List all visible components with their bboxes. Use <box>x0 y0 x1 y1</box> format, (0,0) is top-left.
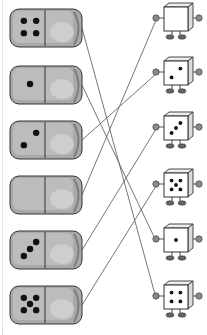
right-hand-icon <box>196 124 202 130</box>
right-hand-icon <box>196 236 202 242</box>
foot-icon <box>178 313 186 317</box>
matching-diagram <box>0 0 207 335</box>
right-hand-icon <box>196 69 202 75</box>
connection-line-6-to-4[interactable] <box>82 186 156 305</box>
pip-dot <box>21 142 27 148</box>
foot-icon <box>178 89 186 93</box>
pip-dot <box>33 130 39 136</box>
domino-column <box>10 9 82 324</box>
dice-character-5[interactable] <box>153 224 202 260</box>
pip-dot <box>21 307 27 313</box>
pip-dot <box>21 30 27 36</box>
foot-icon <box>166 35 174 39</box>
domino-1[interactable] <box>10 9 82 47</box>
foot-icon <box>166 256 174 260</box>
left-hand-icon <box>153 15 159 21</box>
foot-icon <box>178 201 186 205</box>
left-hand-icon <box>153 124 159 130</box>
pip-dot <box>174 126 178 130</box>
dice-character-3[interactable] <box>153 112 202 148</box>
domino-5[interactable] <box>10 231 82 269</box>
dice-character-2[interactable] <box>153 57 202 93</box>
dice-character-4[interactable] <box>153 169 202 205</box>
foot-icon <box>166 89 174 93</box>
pip-dot <box>21 18 27 24</box>
pip-dot <box>170 300 174 304</box>
foot-icon <box>166 201 174 205</box>
domino-6[interactable] <box>10 286 82 324</box>
pip-dot <box>170 188 174 192</box>
pip-dot <box>179 121 183 125</box>
pip-dot <box>27 246 33 252</box>
foot-icon <box>178 256 186 260</box>
left-hand-icon <box>153 293 159 299</box>
right-hand-icon <box>196 293 202 299</box>
left-hand-icon <box>153 181 159 187</box>
dice-character-6[interactable] <box>153 281 202 317</box>
foot-icon <box>166 313 174 317</box>
foot-icon <box>178 35 186 39</box>
pip-dot <box>33 239 39 245</box>
left-hand-icon <box>153 236 159 242</box>
pip-dot <box>33 307 39 313</box>
pip-dot <box>174 238 178 242</box>
pip-dot <box>27 301 33 307</box>
domino-2[interactable] <box>10 66 82 104</box>
right-hand-icon <box>196 181 202 187</box>
foot-icon <box>178 144 186 148</box>
pip-dot <box>179 300 183 304</box>
left-hand-icon <box>153 69 159 75</box>
pip-dot <box>179 179 183 183</box>
foot-icon <box>166 144 174 148</box>
pip-dot <box>33 30 39 36</box>
domino-4[interactable] <box>10 176 82 214</box>
pip-dot <box>21 295 27 301</box>
pip-dot <box>21 253 27 259</box>
pip-dot <box>179 67 183 71</box>
connection-line-5-to-3[interactable] <box>82 129 156 250</box>
pip-dot <box>174 183 178 187</box>
dice-column <box>153 3 202 317</box>
pip-dot <box>33 295 39 301</box>
pip-dot <box>170 76 174 80</box>
pip-dot <box>33 18 39 24</box>
right-hand-icon <box>196 15 202 21</box>
domino-3[interactable] <box>10 121 82 159</box>
connection-lines <box>82 20 156 305</box>
pip-dot <box>27 81 33 87</box>
dice-character-1[interactable] <box>153 3 202 39</box>
pip-dot <box>179 188 183 192</box>
pip-dot <box>179 291 183 295</box>
pip-dot <box>170 179 174 183</box>
pip-dot <box>170 291 174 295</box>
pip-dot <box>170 131 174 135</box>
